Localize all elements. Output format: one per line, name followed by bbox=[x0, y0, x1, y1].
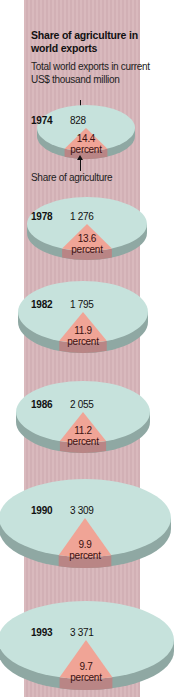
pie-share-value: 9.7percent bbox=[61, 661, 111, 683]
arrow-up-icon bbox=[80, 159, 81, 171]
share-annotation: Share of agriculture bbox=[31, 172, 112, 183]
pie-year-label: 1993 bbox=[31, 627, 52, 638]
pie-total-value: 3 371 bbox=[70, 627, 94, 638]
